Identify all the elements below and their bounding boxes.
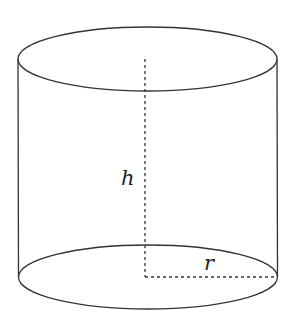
cylinder-diagram: h r: [0, 0, 291, 328]
radius-label: r: [204, 251, 216, 275]
left-side-line: [18, 59, 19, 277]
top-face-ellipse: [18, 27, 277, 91]
height-label: h: [121, 166, 135, 190]
right-side-line: [277, 59, 278, 277]
